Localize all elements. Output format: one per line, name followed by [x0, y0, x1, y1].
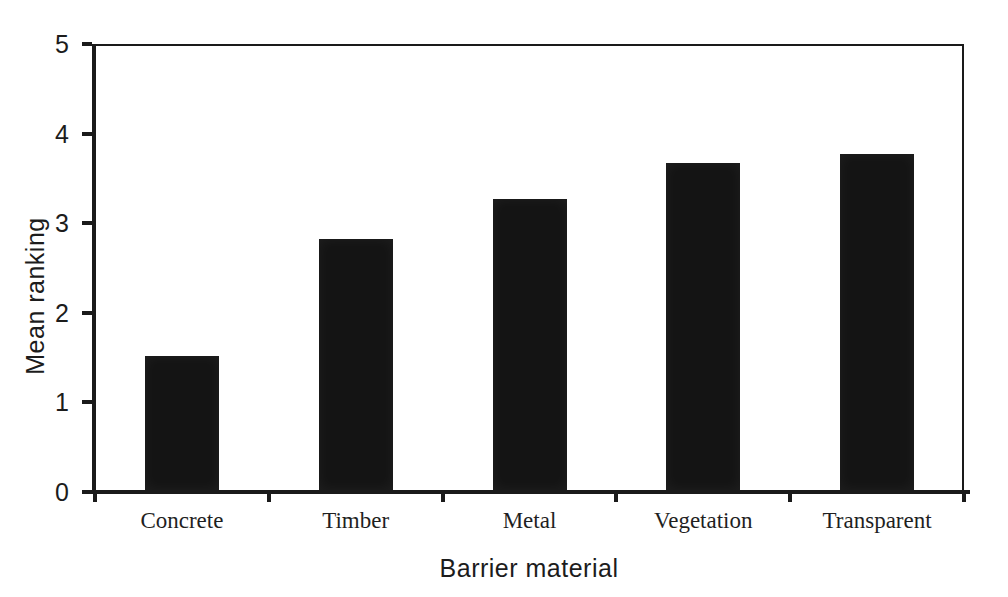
y-tick-label-4: 4: [17, 119, 69, 149]
bar-vegetation: [666, 163, 740, 490]
bar-chart-figure: Mean ranking 012345ConcreteTimberMetalVe…: [0, 0, 1008, 597]
x-axis-title: Barrier material: [440, 554, 619, 583]
category-label-concrete: Concrete: [97, 506, 267, 536]
y-tick-1: [82, 400, 92, 404]
y-tick-label-3: 3: [17, 208, 69, 238]
plot-top-border: [92, 44, 964, 46]
y-tick-label-1: 1: [17, 387, 69, 417]
y-tick-label-2: 2: [17, 298, 69, 328]
y-axis-line: [92, 44, 96, 494]
category-label-transparent: Transparent: [792, 506, 962, 536]
x-tick-5: [962, 494, 966, 502]
category-label-vegetation: Vegetation: [618, 506, 788, 536]
y-tick-4: [82, 132, 92, 136]
bar-transparent: [840, 154, 914, 490]
x-tick-4: [788, 494, 792, 502]
y-tick-0: [82, 490, 92, 494]
y-tick-2: [82, 311, 92, 315]
bar-concrete: [145, 356, 219, 490]
x-tick-0: [93, 494, 97, 502]
plot-right-border: [962, 44, 964, 490]
y-tick-3: [82, 221, 92, 225]
x-axis-line: [92, 490, 970, 494]
y-tick-label-0: 0: [17, 477, 69, 507]
y-tick-5: [82, 42, 92, 46]
category-label-timber: Timber: [271, 506, 441, 536]
x-tick-3: [614, 494, 618, 502]
category-label-metal: Metal: [445, 506, 615, 536]
y-tick-label-5: 5: [17, 29, 69, 59]
bar-metal: [493, 199, 567, 490]
plot-area: 012345ConcreteTimberMetalVegetationTrans…: [0, 0, 1008, 597]
bar-timber: [319, 239, 393, 490]
x-tick-2: [441, 494, 445, 502]
x-tick-1: [267, 494, 271, 502]
